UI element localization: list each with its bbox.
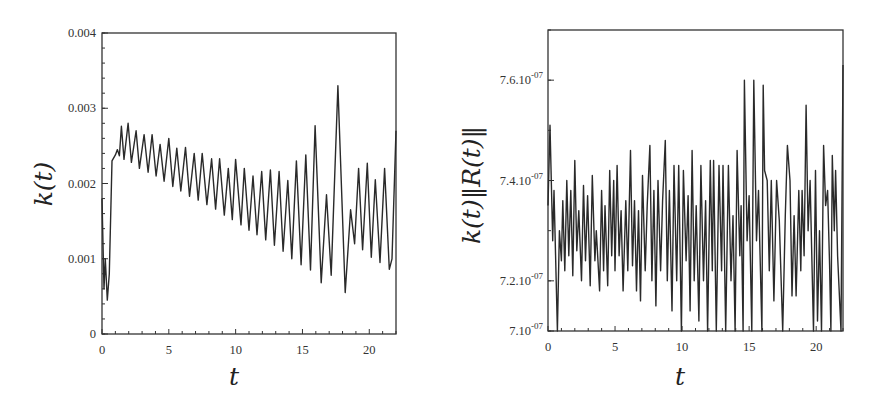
x-axis-ticks: 05101520 [99, 329, 396, 357]
x-tick-label: 0 [99, 343, 105, 357]
x-axis-ticks: 05101520 [545, 326, 843, 354]
y-tick-label: 0.003 [68, 101, 96, 115]
y-tick-label: 7.10-07 [509, 321, 543, 338]
x-tick-label: 15 [743, 340, 756, 354]
y-tick-label: 0 [90, 327, 96, 341]
y-tick-label: 0.004 [68, 26, 97, 40]
y-axis-ticks: 7.10-077.2.10-077.4.10-077.6.10-07 [500, 30, 554, 338]
plot-frame [102, 33, 396, 334]
chart-k-times-norm-R-svg: 7.10-077.2.10-077.4.10-077.6.10-07 05101… [440, 0, 883, 403]
y-tick-label: 0.002 [68, 177, 96, 191]
k-times-norm-R-line [548, 65, 843, 331]
x-tick-label: 5 [612, 340, 618, 354]
x-tick-label: 10 [229, 343, 242, 357]
x-tick-label: 20 [363, 343, 376, 357]
y-tick-label: 0.001 [68, 252, 96, 266]
x-axis-title: t [229, 362, 240, 391]
y-tick-label: 7.2.10-07 [500, 271, 544, 288]
y-tick-label: 7.4.10-07 [500, 171, 544, 188]
y-tick-label: 7.6.10-07 [500, 70, 544, 87]
y-axis-title: k(t) [29, 162, 58, 207]
chart-k-times-norm-R: 7.10-077.2.10-077.4.10-077.6.10-07 05101… [440, 0, 883, 403]
k-of-t-line [102, 86, 396, 300]
y-axis-title: k(t)‖R(t)‖ [457, 126, 487, 244]
x-axis-title: t [675, 362, 686, 391]
chart-k-of-t-svg: 00.0010.0020.0030.004 05101520 t k(t) [0, 0, 440, 403]
x-tick-label: 0 [545, 340, 551, 354]
x-tick-label: 5 [166, 343, 172, 357]
chart-k-of-t: 00.0010.0020.0030.004 05101520 t k(t) [0, 0, 440, 403]
x-tick-label: 10 [676, 340, 689, 354]
x-tick-label: 15 [296, 343, 309, 357]
x-tick-label: 20 [810, 340, 823, 354]
